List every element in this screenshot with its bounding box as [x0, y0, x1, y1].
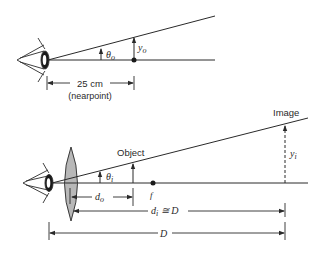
focal-point	[151, 181, 156, 186]
object-point	[132, 58, 137, 63]
eye-icon	[23, 163, 53, 203]
eye-icon	[17, 38, 49, 82]
ray-line	[48, 16, 215, 60]
distance-label: 25 cm	[77, 78, 103, 89]
image-label: Image	[273, 107, 299, 118]
D-label: D	[159, 228, 168, 239]
di-label: di ≅ D	[151, 205, 179, 218]
y-o-label: yo	[137, 42, 146, 55]
do-label: do	[95, 191, 104, 204]
y-i-label: yi	[289, 148, 297, 161]
ray-line	[52, 118, 308, 183]
magnifier-lens	[65, 147, 78, 221]
focus-label: f	[150, 190, 154, 200]
bottom-diagram: θi Object f Image yi do di ≅ D D	[23, 107, 308, 240]
object-label: Object	[117, 147, 145, 158]
magnifier-diagram: θo yo 25 cm (nearpoint)	[0, 0, 323, 253]
theta-i-label: θi	[106, 171, 113, 184]
top-diagram: θo yo 25 cm (nearpoint)	[17, 16, 215, 101]
nearpoint-label: (nearpoint)	[68, 91, 112, 101]
